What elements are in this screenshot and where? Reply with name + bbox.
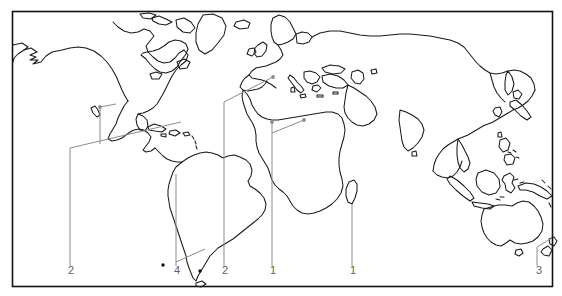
marker-west-africa [270,120,274,124]
marker-north-africa [302,118,306,122]
marker-mexico [98,105,102,109]
callout-label-1-africa: 1 [270,265,276,276]
marker-iberia [271,75,275,79]
callout-label-3-nz: 3 [536,265,542,276]
callout-label-1-madagascar: 1 [350,265,356,276]
figure-canvas: 2 4 2 1 1 3 [0,0,562,296]
callout-label-2-europe: 2 [222,265,228,276]
callout-label-4: 4 [174,265,180,276]
dot-falklands [161,263,164,266]
world-map-svg [0,0,562,296]
callout-label-2-americas: 2 [68,265,74,276]
dot-south-atlantic [198,269,201,272]
